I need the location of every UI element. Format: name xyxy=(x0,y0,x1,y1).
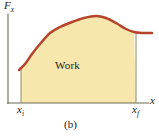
tick-label-x-final: xf xyxy=(132,104,139,118)
figure-caption: (b) xyxy=(64,118,77,130)
work-region-label: Work xyxy=(55,59,80,71)
work-force-displacement-figure: Fx x xi xf Work (b) xyxy=(0,0,159,136)
x-axis-label-symbol: x xyxy=(150,94,155,106)
y-axis-label-symbol: F xyxy=(4,0,11,11)
x-axis-label: x xyxy=(150,95,155,106)
tick-x-final-subscript: f xyxy=(137,109,139,118)
tick-x-initial-subscript: i xyxy=(22,109,24,118)
y-axis-label: Fx xyxy=(4,0,14,14)
tick-label-x-initial: xi xyxy=(17,104,24,118)
y-axis-label-subscript: x xyxy=(11,5,14,14)
